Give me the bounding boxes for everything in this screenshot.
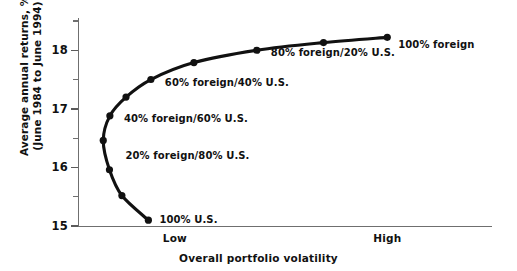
data-point-label-0: 100% U.S. bbox=[159, 214, 217, 225]
data-point-9 bbox=[320, 39, 327, 46]
chart-figure: 18171615 LowHigh Average annual returns,… bbox=[0, 0, 517, 271]
data-point-5 bbox=[122, 94, 129, 101]
plot-area: 100% U.S.20% foreign/80% U.S.40% foreign… bbox=[0, 0, 517, 271]
data-point-0 bbox=[145, 217, 152, 224]
data-point-4 bbox=[106, 112, 113, 119]
data-point-label-2: 20% foreign/80% U.S. bbox=[125, 150, 249, 161]
data-point-7 bbox=[190, 59, 197, 66]
data-point-6 bbox=[147, 76, 154, 83]
data-point-label-6: 60% foreign/40% U.S. bbox=[165, 77, 289, 88]
data-point-10 bbox=[384, 34, 391, 41]
data-point-2 bbox=[106, 166, 113, 173]
data-point-label-10: 100% foreign bbox=[398, 39, 474, 50]
data-point-markers bbox=[100, 34, 391, 224]
data-point-label-8: 80% foreign/20% U.S. bbox=[271, 47, 395, 58]
data-point-label-4: 40% foreign/60% U.S. bbox=[124, 113, 248, 124]
data-point-1 bbox=[118, 192, 125, 199]
data-point-3 bbox=[100, 137, 107, 144]
data-point-8 bbox=[253, 47, 260, 54]
